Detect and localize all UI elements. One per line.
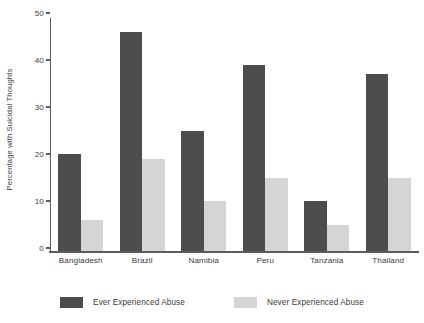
y-axis-tick: 30 bbox=[24, 102, 50, 112]
x-axis-tick-label: Peru bbox=[235, 256, 297, 265]
y-axis-tick: 10 bbox=[24, 196, 50, 206]
bar-groups bbox=[50, 18, 419, 253]
x-axis-tick-label: Brazil bbox=[112, 256, 174, 265]
y-axis-tick: 0 bbox=[24, 243, 50, 253]
x-axis-tick-labels: BangladeshBrazilNamibiaPeruTanzaniaThail… bbox=[50, 256, 419, 272]
x-axis-tick-label: Thailand bbox=[358, 256, 420, 265]
bar bbox=[388, 178, 411, 253]
bar bbox=[142, 159, 165, 253]
y-axis-title: Percentage with Suicidal Thoughts bbox=[0, 0, 20, 258]
bar bbox=[265, 178, 288, 253]
x-axis-tick-label: Namibia bbox=[173, 256, 235, 265]
legend-label: Never Experienced Abuse bbox=[267, 298, 364, 307]
plot-area: 50403020100 bbox=[50, 18, 419, 253]
bar-group bbox=[243, 18, 288, 253]
bar bbox=[58, 154, 81, 253]
legend-label: Ever Experienced Abuse bbox=[93, 298, 185, 307]
legend-color-swatch bbox=[60, 297, 83, 308]
bar bbox=[181, 131, 204, 253]
bar-group bbox=[58, 18, 103, 253]
bar-group bbox=[304, 18, 349, 253]
bar-chart-figure: Percentage with Suicidal Thoughts 504030… bbox=[0, 0, 424, 323]
bar bbox=[120, 32, 143, 253]
bar bbox=[304, 201, 327, 253]
x-axis-tick-label: Tanzania bbox=[296, 256, 358, 265]
bar bbox=[327, 225, 350, 253]
chart-legend: Ever Experienced AbuseNever Experienced … bbox=[0, 292, 424, 312]
bar bbox=[243, 65, 266, 253]
bar bbox=[81, 220, 104, 253]
legend-item: Ever Experienced Abuse bbox=[60, 297, 185, 308]
x-axis-tick-label: Bangladesh bbox=[50, 256, 112, 265]
legend-item: Never Experienced Abuse bbox=[234, 297, 364, 308]
bar-group bbox=[181, 18, 226, 253]
legend-color-swatch bbox=[234, 297, 257, 308]
y-axis-tick: 50 bbox=[24, 8, 50, 18]
bar-group bbox=[120, 18, 165, 253]
y-axis-tick: 20 bbox=[24, 149, 50, 159]
y-axis-title-text: Percentage with Suicidal Thoughts bbox=[6, 68, 15, 190]
y-axis-tick-mark bbox=[46, 12, 51, 13]
bar bbox=[366, 74, 389, 253]
bar-group bbox=[366, 18, 411, 253]
bar bbox=[204, 201, 227, 253]
y-axis-tick: 40 bbox=[24, 55, 50, 65]
